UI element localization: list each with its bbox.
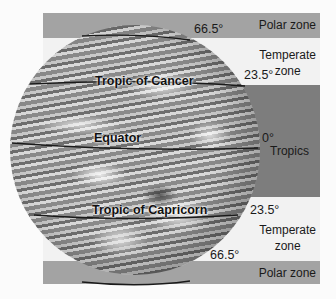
antarctic-circle-degree: 66.5° xyxy=(210,248,239,262)
arctic-circle-degree: 66.5° xyxy=(194,22,223,36)
tropic-of-capricorn-degree: 23.5° xyxy=(250,203,279,217)
temperate-south-line2: zone xyxy=(259,238,316,254)
polar-zone-south-label: Polar zone xyxy=(259,265,316,281)
tropics-label: Tropics xyxy=(270,143,309,159)
equator-degree: 0° xyxy=(262,131,274,145)
temperate-south-line1: Temperate xyxy=(259,222,316,238)
equator-label: Equator xyxy=(94,131,141,145)
antarctic-circle-line xyxy=(82,281,190,285)
temperate-zone-south-label: Temperate zone xyxy=(259,222,316,254)
temperate-north-line1: Temperate xyxy=(259,47,316,63)
polar-zone-north-label: Polar zone xyxy=(259,17,316,33)
tropic-of-capricorn-label: Tropic of Capricorn xyxy=(92,203,207,217)
arctic-circle-line xyxy=(82,35,190,40)
tropic-of-cancer-label: Tropic of Cancer xyxy=(95,74,194,88)
tropic-of-cancer-degree: 23.5° xyxy=(244,68,273,82)
